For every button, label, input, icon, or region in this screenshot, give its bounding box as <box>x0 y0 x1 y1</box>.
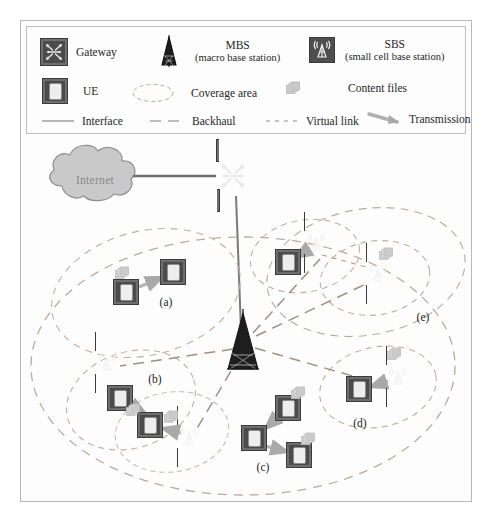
virtual-sbs-e1-e2 <box>322 255 370 268</box>
topology-scene: Internet <box>0 0 494 524</box>
content-files-icon <box>386 347 402 367</box>
ue-screen <box>353 381 366 398</box>
gateway-icon <box>217 140 249 211</box>
ue-node[interactable] <box>161 260 185 284</box>
ue-screen <box>144 417 157 434</box>
sbs-node[interactable] <box>95 333 119 393</box>
coverage-cluster-d <box>312 336 444 439</box>
sbs-node[interactable] <box>304 213 328 273</box>
ue-node[interactable] <box>242 426 266 450</box>
cluster-label-d: (d) <box>353 417 366 429</box>
backhaul-mbs-sbs-b1 <box>120 349 233 366</box>
transmission-a <box>139 277 163 287</box>
cluster-label-a: (a) <box>160 296 173 308</box>
cluster-label-b: (b) <box>148 373 161 385</box>
content-files-icon <box>290 386 306 406</box>
coverage-cluster-a <box>38 210 254 377</box>
gateway-node[interactable] <box>217 142 249 210</box>
content-files-icon <box>300 432 316 452</box>
backhaul-mbs-cluster-e2 <box>256 282 370 336</box>
interface-gateway-mbs <box>236 196 241 330</box>
ue-icon <box>161 260 185 284</box>
ue-icon <box>276 250 300 274</box>
sbs-node[interactable] <box>177 407 201 467</box>
cluster-label-c: (c) <box>257 461 270 473</box>
content-files-icon <box>163 410 179 430</box>
ue-icon <box>138 413 162 437</box>
internet-label: Internet <box>76 174 114 186</box>
ue-node[interactable] <box>276 250 300 274</box>
ue-icon <box>347 377 371 401</box>
sbs-icon <box>304 212 328 273</box>
content-files-icon <box>125 403 141 423</box>
content-files-icon <box>378 247 394 267</box>
ue-icon <box>242 426 266 450</box>
backhaul-mbs-cluster-b2 <box>196 356 240 430</box>
ue-screen <box>282 254 295 271</box>
cluster-label-e: (e) <box>417 311 430 323</box>
internet-cloud-icon <box>50 145 135 200</box>
mbs-tower-node <box>227 309 259 369</box>
content-files-icon <box>114 266 130 286</box>
transmission-c2 <box>265 446 288 452</box>
ue-screen <box>167 264 180 281</box>
sbs-icon <box>95 332 119 393</box>
ue-node[interactable] <box>138 413 162 437</box>
ue-screen <box>248 430 261 447</box>
ue-node[interactable] <box>347 377 371 401</box>
sbs-icon <box>177 406 201 467</box>
network-architecture-figure: Gateway MBS (macro base station) <box>0 0 494 524</box>
ue-screen <box>120 284 133 301</box>
